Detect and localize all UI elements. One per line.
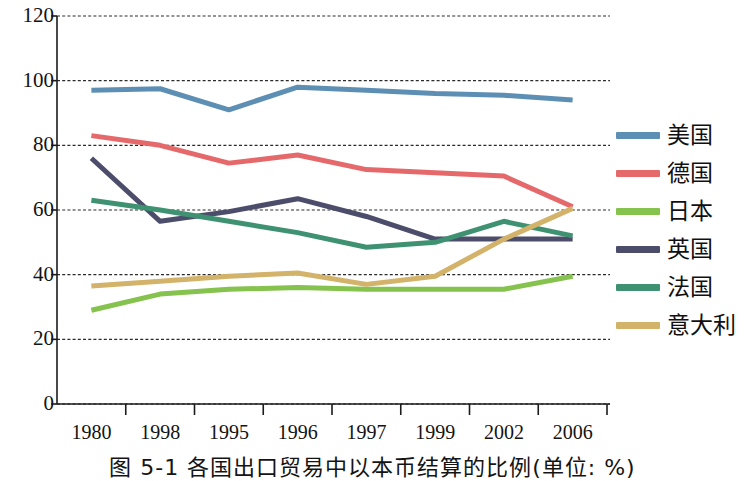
x-tick-label-1998: 1998 <box>124 420 196 444</box>
legend-item-意大利[interactable]: 意大利 <box>616 306 745 344</box>
legend-item-日本[interactable]: 日本 <box>616 192 745 230</box>
x-tick-label-1980: 1980 <box>55 420 127 444</box>
x-tick-label-2006: 2006 <box>537 420 609 444</box>
figure-caption: 图 5-1 各国出口贸易中以本币结算的比例(单位: %) <box>0 455 745 481</box>
x-tick-label-1995: 1995 <box>193 420 265 444</box>
legend-item-英国[interactable]: 英国 <box>616 230 745 268</box>
legend-color-swatch <box>616 208 660 215</box>
legend-label: 美国 <box>667 122 713 148</box>
chart-legend: 美国德国日本英国法国意大利 <box>616 116 745 344</box>
x-axis-tick-labels: 19801998199519961997199920022006 <box>0 420 620 454</box>
legend-item-德国[interactable]: 德国 <box>616 154 745 192</box>
legend-color-swatch <box>616 132 660 139</box>
x-tick-label-1999: 1999 <box>399 420 471 444</box>
legend-item-美国[interactable]: 美国 <box>616 116 745 154</box>
legend-label: 德国 <box>667 160 713 186</box>
series-line-3 <box>91 158 572 239</box>
x-tick-label-1997: 1997 <box>330 420 402 444</box>
legend-color-swatch <box>616 284 660 291</box>
legend-item-法国[interactable]: 法国 <box>616 268 745 306</box>
series-line-0 <box>91 87 572 110</box>
y-axis-ticks <box>51 16 57 404</box>
legend-color-swatch <box>616 322 660 329</box>
x-tick-label-2002: 2002 <box>468 420 540 444</box>
series-line-1 <box>91 136 572 207</box>
data-series-lines <box>91 87 572 310</box>
legend-label: 英国 <box>667 236 713 262</box>
legend-color-swatch <box>616 170 660 177</box>
legend-label: 意大利 <box>667 312 736 338</box>
legend-label: 日本 <box>667 198 713 224</box>
x-axis-ticks <box>126 404 607 415</box>
x-tick-label-1996: 1996 <box>262 420 334 444</box>
legend-color-swatch <box>616 246 660 253</box>
legend-label: 法国 <box>667 274 713 300</box>
